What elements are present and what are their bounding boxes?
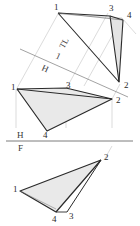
construction-line-1-aux xyxy=(16,14,58,90)
auxiliary-view-edges xyxy=(58,13,119,82)
frontal-vertex-label-2: 2 xyxy=(104,152,109,162)
horizontal-vertex-label-4: 4 xyxy=(43,130,48,140)
auxiliary-vertex-label-3: 3 xyxy=(109,3,114,13)
true-length-label: TL xyxy=(57,36,71,50)
frontal-vertex-label-3: 3 xyxy=(69,211,74,221)
fold-line-h1-label-lower: H xyxy=(40,63,50,75)
auxiliary-vertex-label-1: 1 xyxy=(54,2,59,12)
horizontal-vertex-label-2: 2 xyxy=(116,95,121,105)
frontal-vertex-label-1: 1 xyxy=(13,184,18,194)
horizontal-vertex-label-1: 1 xyxy=(11,82,16,92)
frontal-vertex-label-4: 4 xyxy=(52,214,57,224)
fold-line-h1-label-upper: 1 xyxy=(54,51,62,62)
horizontal-vertex-label-3: 3 xyxy=(66,80,71,90)
technical-drawing-canvas: 1 H 1 3 4 2 TL 1 3 2 xyxy=(0,0,140,226)
projector-aux-right xyxy=(122,18,136,34)
fold-line-hf-label-h: H xyxy=(17,130,24,140)
auxiliary-vertex-label-2: 2 xyxy=(124,80,129,90)
construction-line-3-aux xyxy=(66,13,108,89)
fold-line-hf-group: H F xyxy=(6,130,133,153)
frontal-view: 2 1 4 3 xyxy=(13,152,109,224)
horizontal-view: 1 3 2 4 xyxy=(11,80,121,140)
geometry-svg: 1 H 1 3 4 2 TL 1 3 2 xyxy=(0,0,140,226)
auxiliary-vertex-label-4: 4 xyxy=(127,10,132,20)
true-length-annotation: TL xyxy=(57,36,71,50)
fold-line-hf-label-f: F xyxy=(18,143,23,153)
